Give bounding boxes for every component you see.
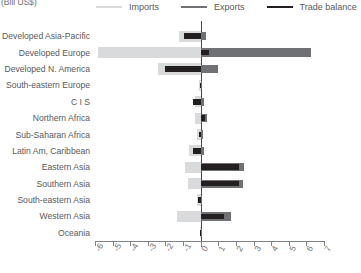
legend-swatch-exports: [181, 6, 207, 9]
bar-exports: [201, 48, 311, 56]
bar-group: [95, 110, 324, 126]
category-label: Latin Am, Caribbean: [12, 146, 90, 156]
legend-label-trade-balance: Trade balance: [300, 2, 357, 12]
bar-trade-balance: [193, 99, 201, 105]
legend-item-exports: Exports: [181, 2, 245, 12]
bar-imports: [188, 178, 200, 189]
axis-tick-label: -6: [93, 242, 105, 253]
bar-trade-balance: [201, 50, 209, 56]
bar-trade-balance: [198, 197, 201, 203]
legend-swatch-trade-balance: [267, 6, 293, 9]
bar-group: [95, 44, 324, 60]
bar-imports: [177, 211, 201, 222]
category-axis-labels: Developed Asia-PacificDeveloped EuropeDe…: [0, 28, 92, 241]
axis-tick-label: 4: [269, 244, 280, 253]
plot-area: [95, 28, 324, 241]
bar-group: [95, 28, 324, 44]
category-label: Western Asia: [40, 211, 90, 221]
bar-group: [95, 94, 324, 110]
bar-trade-balance: [201, 181, 239, 187]
bar-trade-balance: [200, 230, 201, 236]
bar-imports: [185, 162, 201, 173]
bar-group: [95, 61, 324, 77]
bar-group: [95, 192, 324, 208]
axis-tick-label: -1: [181, 242, 193, 253]
category-label: Eastern Asia: [42, 162, 90, 172]
bar-group: [95, 77, 324, 93]
category-label: Southern Asia: [36, 179, 90, 189]
category-label: Developed Europe: [19, 48, 90, 58]
category-label: Developed Asia-Pacific: [2, 31, 90, 41]
category-label: Northern Africa: [33, 113, 90, 123]
bar-trade-balance: [199, 132, 201, 138]
bar-exports: [201, 81, 202, 89]
category-label: South-eastern Europe: [6, 80, 90, 90]
category-label: Oceania: [58, 228, 90, 238]
axis-tick-label: 7: [322, 244, 333, 253]
bar-group: [95, 126, 324, 142]
axis-tick-label: 3: [252, 244, 263, 253]
bar-trade-balance: [201, 164, 240, 170]
legend-swatch-imports: [96, 6, 122, 9]
axis-tick-label: 5: [287, 244, 298, 253]
category-label: Sub-Saharan Africa: [15, 130, 90, 140]
bar-exports: [201, 130, 204, 138]
bar-group: [95, 143, 324, 159]
category-label: Developed N. America: [4, 64, 90, 74]
unit-label: (Bill US$): [1, 0, 37, 7]
axis-tick-label: 6: [304, 244, 315, 253]
axis-tick-label: -4: [128, 242, 140, 253]
chart-legend: Imports Exports Trade balance: [96, 0, 361, 14]
category-label: C I S: [71, 97, 90, 107]
bar-exports: [201, 32, 206, 40]
bar-exports: [201, 196, 203, 204]
bar-exports: [201, 98, 205, 106]
legend-label-exports: Exports: [214, 2, 245, 12]
bar-trade-balance: [165, 66, 201, 72]
axis-tick-label: 1: [216, 244, 227, 253]
bar-trade-balance: [193, 148, 201, 154]
category-label: South-eastern Asia: [17, 195, 90, 205]
legend-item-trade-balance: Trade balance: [267, 2, 357, 12]
bar-group: [95, 175, 324, 191]
axis-tick-label: 0: [199, 244, 210, 253]
bar-exports: [201, 65, 219, 73]
bar-trade-balance: [201, 115, 205, 121]
axis-tick-label: -3: [146, 242, 158, 253]
legend-item-imports: Imports: [96, 2, 159, 12]
bar-trade-balance: [184, 33, 201, 39]
bar-group: [95, 159, 324, 175]
legend-label-imports: Imports: [129, 2, 159, 12]
bar-group: [95, 225, 324, 241]
axis-tick-label: 2: [234, 244, 245, 253]
bar-trade-balance: [201, 214, 225, 220]
axis-tick-label: -5: [111, 242, 123, 253]
bar-exports: [201, 147, 205, 155]
axis-tick-label: -2: [163, 242, 175, 253]
bar-trade-balance: [200, 83, 201, 89]
bar-imports: [98, 47, 201, 58]
bar-group: [95, 208, 324, 224]
